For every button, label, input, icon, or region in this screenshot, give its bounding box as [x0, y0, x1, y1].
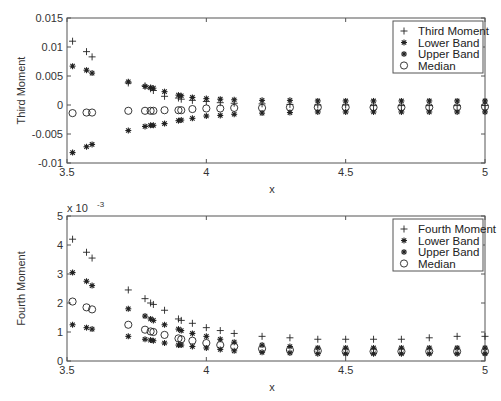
x-tick-label: 4.5 — [338, 166, 353, 178]
y-tick-label: 0 — [57, 355, 63, 367]
x-tick-label: 4 — [203, 166, 209, 178]
x-tick-label: 4.5 — [338, 364, 353, 376]
y-multiplier: x 10 — [67, 202, 88, 214]
legend-entry: Upper Band — [418, 48, 479, 60]
legend-entry: Median — [418, 258, 456, 270]
legend-entry: Lower Band — [418, 235, 479, 247]
y-tick-label: 5 — [57, 210, 63, 222]
x-tick-label: 5 — [482, 166, 488, 178]
y-axis-label: Third Moment — [15, 57, 27, 125]
y-tick-label: 0.005 — [35, 70, 63, 82]
y-tick-label: 0.015 — [35, 12, 63, 24]
subplot-2: 3.544.55012345x 10-3Fourth MomentxFourth… — [15, 200, 497, 393]
legend-entry: Third Moment — [418, 25, 490, 37]
legend-entry: Upper Band — [418, 246, 479, 258]
y-tick-label: -0.005 — [32, 128, 63, 140]
y-tick-label: 0.01 — [42, 41, 63, 53]
y-tick-label: 2 — [57, 297, 63, 309]
x-axis-label: x — [269, 381, 275, 393]
y-multiplier-exponent: -3 — [97, 200, 105, 209]
x-axis-label: x — [269, 183, 275, 195]
y-tick-label: 4 — [57, 239, 63, 251]
legend: Fourth MomentLower BandUpper BandMedian — [393, 219, 497, 271]
y-tick-label: -0.01 — [38, 157, 63, 169]
legend: Third MomentLower BandUpper BandMedian — [393, 21, 490, 73]
y-tick-label: 1 — [57, 326, 63, 338]
y-axis-label: Fourth Moment — [15, 251, 27, 326]
x-tick-label: 5 — [482, 364, 488, 376]
y-tick-label: 3 — [57, 268, 63, 280]
y-tick-label: 0 — [57, 99, 63, 111]
x-tick-label: 4 — [203, 364, 209, 376]
legend-entry: Median — [418, 60, 456, 72]
legend-entry: Fourth Moment — [418, 223, 497, 235]
figure: 3.544.55-0.01-0.00500.0050.010.015Third … — [0, 0, 501, 401]
legend-entry: Lower Band — [418, 37, 479, 49]
subplot-1: 3.544.55-0.01-0.00500.0050.010.015Third … — [15, 12, 490, 195]
